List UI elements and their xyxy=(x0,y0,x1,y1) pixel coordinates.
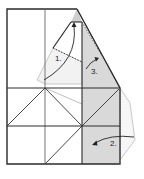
step-label-3: 3. xyxy=(91,67,98,76)
crease-diagonal xyxy=(7,88,45,126)
crease-diagonal xyxy=(45,88,82,126)
ghost-flap-right xyxy=(120,88,135,160)
step-label-1: 1. xyxy=(55,54,62,63)
step-label-2: 2. xyxy=(110,139,117,148)
flap-edge xyxy=(53,22,71,48)
crease-diagonal xyxy=(45,126,82,164)
ghost-crease xyxy=(45,88,82,104)
origami-diagram: 1. 3. 2. xyxy=(0,0,144,179)
arrowhead-icon xyxy=(72,22,77,27)
